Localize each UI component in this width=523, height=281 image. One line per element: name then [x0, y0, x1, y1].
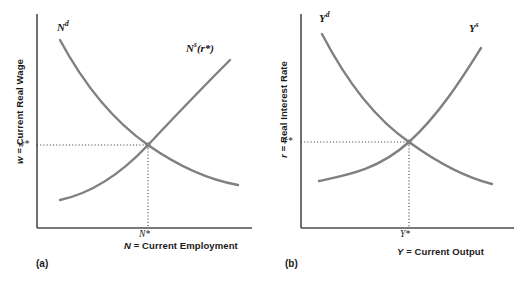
- demand-curve-label-base: Y: [319, 12, 326, 24]
- x-axis-title-variable: N: [124, 240, 131, 251]
- equilibrium-point: [406, 139, 411, 144]
- equilibrium-point: [145, 142, 150, 147]
- demand-curve-label-base: N: [57, 21, 65, 33]
- supply-curve-label: Ys: [469, 22, 479, 34]
- y-tick-label: r*: [284, 136, 292, 146]
- demand-curve: [60, 40, 238, 185]
- y-tick-label: w*: [18, 139, 29, 149]
- panel-caption: (b): [285, 258, 298, 269]
- y-axis-title-variable: r: [278, 154, 289, 158]
- demand-curve-label: Yd: [319, 12, 329, 24]
- supply-curve-label: Ns(r*): [186, 42, 214, 54]
- supply-curve-label-base: N: [186, 42, 194, 54]
- x-axis-title-text: = Current Employment: [131, 240, 238, 251]
- panel-b-plot: [262, 0, 523, 281]
- x-tick-label: Y*: [400, 229, 410, 239]
- demand-curve: [322, 34, 492, 184]
- demand-curve-label: Nd: [57, 21, 69, 33]
- x-axis-title: Y = Current Output: [397, 246, 484, 257]
- panel-b: r = Real Interest Rate Y = Current Outpu…: [262, 0, 523, 281]
- figure-root: w = Current Real Wage N = Current Employ…: [0, 0, 523, 281]
- supply-curve: [319, 48, 481, 181]
- supply-curve-label-base: Y: [469, 22, 476, 34]
- x-axis-title: N = Current Employment: [124, 240, 238, 251]
- supply-curve-label-sup: s: [476, 20, 479, 29]
- x-axis-title-text: = Current Output: [403, 246, 484, 257]
- y-axis-title-variable: w: [14, 157, 25, 165]
- panel-a: w = Current Real Wage N = Current Employ…: [0, 0, 261, 281]
- demand-curve-label-sup: d: [65, 19, 69, 28]
- panel-a-plot: [0, 0, 261, 281]
- supply-curve-label-suffix: (r*): [197, 42, 214, 54]
- x-tick-label: N*: [139, 229, 150, 239]
- demand-curve-label-sup: d: [326, 10, 330, 19]
- panel-caption: (a): [36, 258, 48, 269]
